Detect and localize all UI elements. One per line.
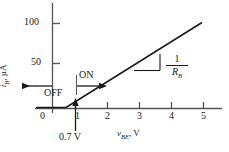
threshold-label: 0.7 V xyxy=(59,132,81,142)
y-tick-label-100: 100 xyxy=(24,17,39,27)
input-characteristic-figure: iB, µA 100 50 0 1 2 3 4 5 vBE, V OFF ON … xyxy=(0,0,229,152)
slope-denominator-subscript: B xyxy=(178,72,182,79)
slope-label: 1 RB xyxy=(166,54,188,79)
x-axis-title: vBE, V xyxy=(117,129,140,140)
y-axis-ticks xyxy=(53,24,61,64)
x-axis-unit: , V xyxy=(129,128,140,138)
off-region-label: OFF xyxy=(44,88,62,98)
x-axis-ticks xyxy=(76,102,204,109)
x-tick-label-5: 5 xyxy=(201,111,206,121)
x-origin-label: 0 xyxy=(40,111,45,121)
on-region-label: ON xyxy=(79,70,93,80)
slope-denominator: RB xyxy=(166,67,188,80)
x-tick-label-2: 2 xyxy=(105,111,110,121)
x-axis-subscript: BE xyxy=(121,133,129,140)
slope-numerator: 1 xyxy=(166,54,188,65)
x-tick-label-3: 3 xyxy=(137,111,142,121)
x-tick-label-1: 1 xyxy=(75,111,80,121)
y-axis-title: iB, µA xyxy=(0,65,10,88)
x-tick-label-4: 4 xyxy=(169,111,174,121)
y-tick-label-50: 50 xyxy=(31,57,41,67)
y-axis-symbol: i xyxy=(0,85,8,88)
y-axis-unit: , µA xyxy=(0,65,8,81)
y-axis-subscript: B xyxy=(3,81,10,85)
